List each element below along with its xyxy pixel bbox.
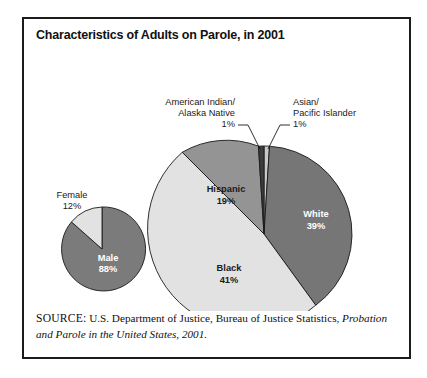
race-pie-chart: American Indian/ Alaska Native 1% Asian/… (148, 97, 356, 311)
label-black-name: Black (217, 263, 243, 273)
source-note: SOURCE: U.S. Department of Justice, Bure… (36, 311, 397, 341)
label-male-percent: 88% (99, 264, 118, 274)
label-american-indian-percent: 1% (222, 119, 235, 129)
source-label: SOURCE: (36, 312, 86, 325)
source-text: U.S. Department of Justice, Bureau of Ju… (86, 312, 342, 324)
label-white-percent: 39% (307, 221, 326, 231)
figure-container: Characteristics of Adults on Parole, in … (22, 17, 411, 359)
label-female-percent: 12% (63, 201, 82, 211)
chart-area: Female 12% Male 88% (24, 49, 409, 311)
label-asian-line2: Pacific Islander (293, 108, 356, 118)
label-asian-line1: Asian/ (293, 97, 319, 107)
label-female-name: Female (56, 190, 87, 200)
page-title: Characteristics of Adults on Parole, in … (36, 28, 284, 42)
leader-line-asian (268, 125, 290, 149)
pie-charts-svg: Female 12% Male 88% (24, 49, 409, 311)
label-black-percent: 41% (220, 275, 239, 285)
label-asian-percent: 1% (293, 119, 306, 129)
label-white-name: White (303, 209, 328, 219)
label-hispanic-percent: 19% (217, 196, 236, 206)
label-american-indian-line2: Alaska Native (178, 108, 235, 118)
label-male-name: Male (98, 253, 119, 263)
label-american-indian-line1: American Indian/ (165, 97, 235, 107)
label-hispanic-name: Hispanic (207, 184, 246, 194)
sex-pie-chart: Female 12% Male 88% (56, 190, 145, 291)
